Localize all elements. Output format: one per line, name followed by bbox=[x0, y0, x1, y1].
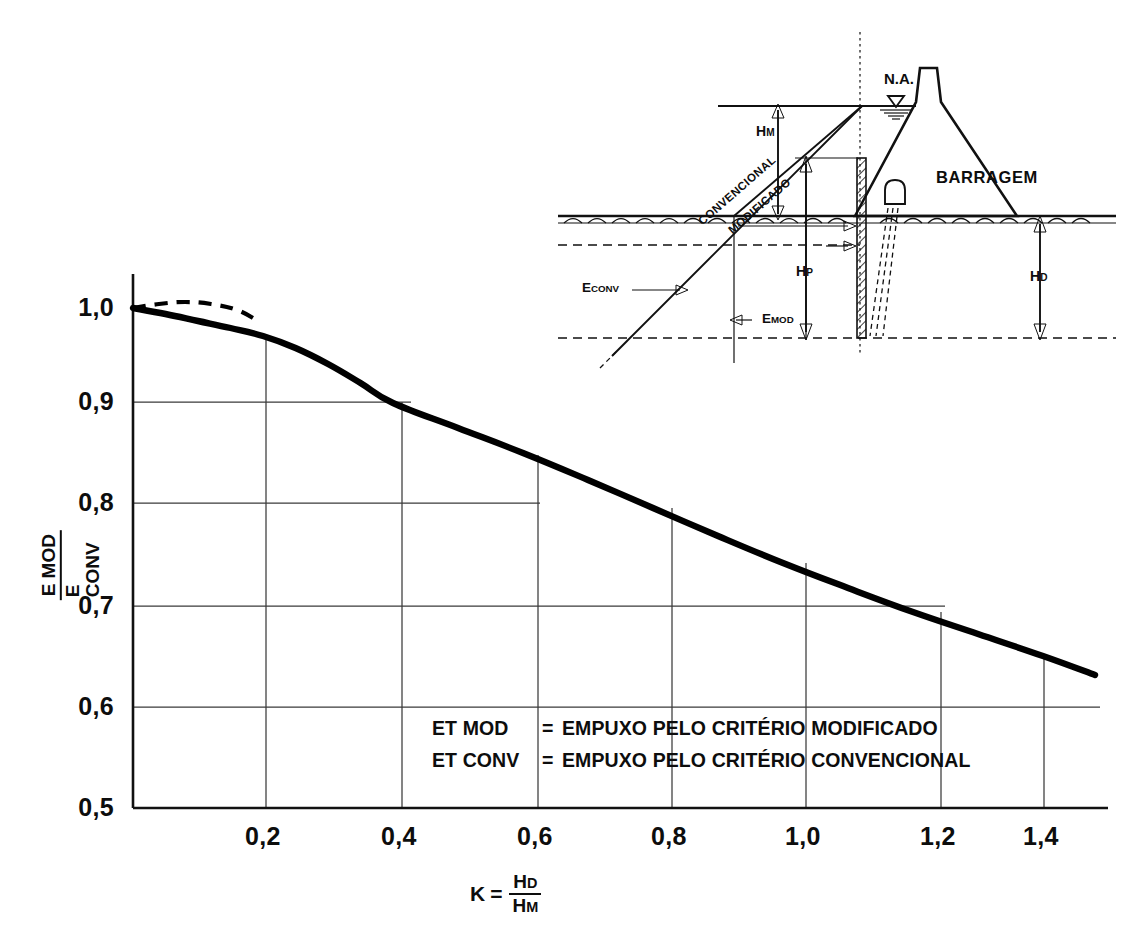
x-tick-1-0: 1,0 bbox=[785, 822, 821, 851]
y-axis-label: E MOD E CONV bbox=[36, 505, 106, 625]
x-axis-label: K = HD HM bbox=[470, 872, 541, 916]
dimension-hm bbox=[718, 104, 856, 220]
dam-diagram-svg bbox=[540, 18, 1134, 370]
figure-root: 1,0 0,9 0,8 0,7 0,6 0,5 0,2 0,4 0,6 0,8 … bbox=[0, 0, 1134, 949]
legend-row: ET CONV = EMPUXO PELO CRITÉRIO CONVENCIO… bbox=[432, 745, 971, 777]
legend-key-mod: ET MOD bbox=[432, 713, 542, 745]
x-axis-numerator: HD bbox=[510, 872, 540, 893]
horizontal-gridlines bbox=[133, 402, 1100, 707]
dam-section-diagram: N.A. BARRAGEM HM HP HD ECONV EMOD CONVEN… bbox=[540, 18, 1134, 370]
y-tick-0-5: 0,5 bbox=[42, 793, 114, 822]
y-axis-fraction: E MOD E CONV bbox=[39, 530, 103, 600]
y-tick-0-6: 0,6 bbox=[42, 692, 114, 721]
ground-hatching bbox=[564, 219, 1090, 224]
y-tick-0-9: 0,9 bbox=[42, 387, 114, 416]
x-tick-0-8: 0,8 bbox=[651, 822, 687, 851]
dimension-label-hm: HM bbox=[756, 123, 775, 139]
drain-lines bbox=[870, 208, 898, 336]
x-axis-denominator: HM bbox=[509, 895, 541, 916]
legend: ET MOD = EMPUXO PELO CRITÉRIO MODIFICADO… bbox=[432, 713, 971, 776]
x-axis-label-k: K bbox=[470, 882, 485, 906]
x-tick-0-6: 0,6 bbox=[517, 822, 553, 851]
x-tick-1-4: 1,4 bbox=[1023, 822, 1059, 851]
line-conventional-tail bbox=[600, 352, 616, 368]
legend-key-conv: ET CONV bbox=[432, 745, 542, 777]
x-axis-label-equals: = bbox=[490, 882, 502, 906]
x-tick-0-4: 0,4 bbox=[381, 822, 417, 851]
legend-row: ET MOD = EMPUXO PELO CRITÉRIO MODIFICADO bbox=[432, 713, 971, 745]
dam-label: BARRAGEM bbox=[936, 168, 1038, 187]
gallery-opening bbox=[885, 180, 905, 204]
y-tick-1-0: 1,0 bbox=[42, 293, 114, 322]
legend-value-conv: EMPUXO PELO CRITÉRIO CONVENCIONAL bbox=[562, 745, 971, 777]
y-axis-denominator: E CONV bbox=[62, 530, 103, 600]
dam-body bbox=[855, 68, 1017, 216]
leader-emod bbox=[730, 315, 752, 325]
y-axis-numerator: E MOD bbox=[39, 531, 60, 599]
force-label-emod: EMOD bbox=[762, 311, 794, 326]
legend-equals: = bbox=[542, 745, 562, 777]
dimension-label-hp: HP bbox=[796, 263, 813, 279]
x-tick-0-2: 0,2 bbox=[245, 822, 281, 851]
line-modified bbox=[734, 106, 862, 216]
dimension-hp bbox=[795, 156, 858, 340]
force-label-econv: ECONV bbox=[582, 280, 619, 295]
water-level-label: N.A. bbox=[884, 70, 914, 87]
legend-value-mod: EMPUXO PELO CRITÉRIO MODIFICADO bbox=[562, 713, 938, 745]
leader-econv bbox=[632, 285, 688, 295]
cutoff-wall bbox=[857, 158, 866, 338]
pressure-arrows bbox=[738, 221, 856, 251]
legend-equals: = bbox=[542, 713, 562, 745]
x-tick-1-2: 1,2 bbox=[920, 822, 956, 851]
dimension-label-hd: HD bbox=[1030, 268, 1047, 284]
x-axis-fraction: HD HM bbox=[509, 872, 541, 916]
